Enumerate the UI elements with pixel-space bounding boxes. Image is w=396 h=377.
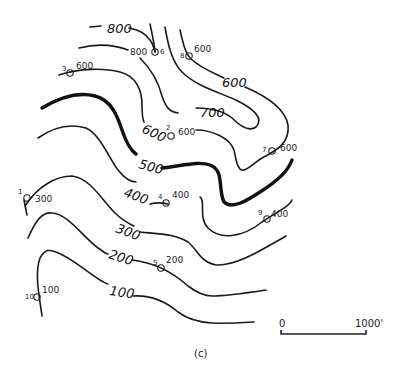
contour-500 xyxy=(42,95,136,155)
contour-label-200: 200 xyxy=(107,247,135,269)
contour-label-400: 400 xyxy=(122,185,150,208)
point-10: 10 100 xyxy=(25,285,59,301)
contour-200 xyxy=(28,213,108,254)
svg-text:3: 3 xyxy=(62,65,66,73)
svg-text:100: 100 xyxy=(42,285,59,295)
contour-600-right-b xyxy=(196,87,288,170)
svg-text:6: 6 xyxy=(160,48,165,56)
svg-text:600: 600 xyxy=(280,143,297,153)
point-4: 4 400 xyxy=(158,190,189,206)
contour-700-left xyxy=(140,58,178,113)
svg-text:5: 5 xyxy=(153,259,157,267)
svg-text:9: 9 xyxy=(258,209,262,217)
contour-800-upper xyxy=(150,24,155,52)
svg-text:8: 8 xyxy=(180,52,184,60)
svg-text:600: 600 xyxy=(76,61,93,71)
scale-bar-end-label: 1000' xyxy=(355,318,383,329)
contour-800-second xyxy=(79,45,128,50)
contour-400-b xyxy=(150,203,168,204)
scale-bar: 0 1000' xyxy=(279,318,383,334)
contour-100 xyxy=(37,250,108,316)
contour-300-b xyxy=(140,232,286,265)
contour-label-700: 700 xyxy=(200,105,225,120)
scale-bar-start-label: 0 xyxy=(279,318,285,329)
contour-label-300: 300 xyxy=(114,221,142,244)
point-9: 9 400 xyxy=(258,209,288,222)
contour-300-left xyxy=(24,200,27,215)
contour-label-600: 600 xyxy=(222,75,247,90)
svg-text:600: 600 xyxy=(194,44,211,54)
point-3: 3 600 xyxy=(62,61,93,76)
svg-text:600: 600 xyxy=(178,127,195,137)
contour-100-b xyxy=(133,296,254,323)
point-2: 2 600 xyxy=(166,124,195,139)
svg-text:2: 2 xyxy=(166,124,170,132)
figure-caption: (c) xyxy=(194,348,207,359)
contour-label-800-b: 800 xyxy=(130,47,147,57)
svg-text:400: 400 xyxy=(172,190,189,200)
svg-text:300: 300 xyxy=(35,194,52,204)
contour-400 xyxy=(38,126,136,182)
svg-text:400: 400 xyxy=(271,209,288,219)
point-1: 1 300 xyxy=(18,188,52,204)
svg-text:10: 10 xyxy=(25,293,34,301)
contour-map: 800 800 700 600 600 500 400 300 200 100 … xyxy=(0,0,396,377)
point-7: 7 600 xyxy=(262,143,297,154)
contour-label-600-b: 600 xyxy=(140,121,169,145)
contour-800-top xyxy=(90,26,101,27)
svg-text:200: 200 xyxy=(166,255,183,265)
contour-label-800: 800 xyxy=(107,21,132,36)
svg-text:1: 1 xyxy=(18,188,22,196)
point-6: 6 xyxy=(152,48,165,56)
contour-label-100: 100 xyxy=(109,283,136,301)
svg-text:7: 7 xyxy=(262,146,266,154)
point-5: 5 200 xyxy=(153,255,183,271)
svg-text:4: 4 xyxy=(158,193,163,201)
